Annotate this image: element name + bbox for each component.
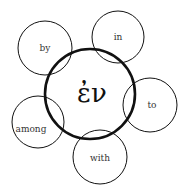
- center-node: ἐν: [45, 49, 135, 139]
- satellite-label: in: [114, 32, 123, 42]
- satellite-label: among: [16, 124, 47, 134]
- satellite-label: to: [147, 100, 156, 110]
- satellite-in: in: [92, 11, 144, 63]
- center-label: ἐν: [77, 78, 107, 108]
- satellite-label: by: [40, 43, 52, 53]
- satellite-label: with: [90, 153, 110, 163]
- satellite-to: to: [123, 78, 177, 132]
- preposition-diagram: by in to with among ἐν: [0, 0, 186, 195]
- satellite-by: by: [18, 21, 72, 75]
